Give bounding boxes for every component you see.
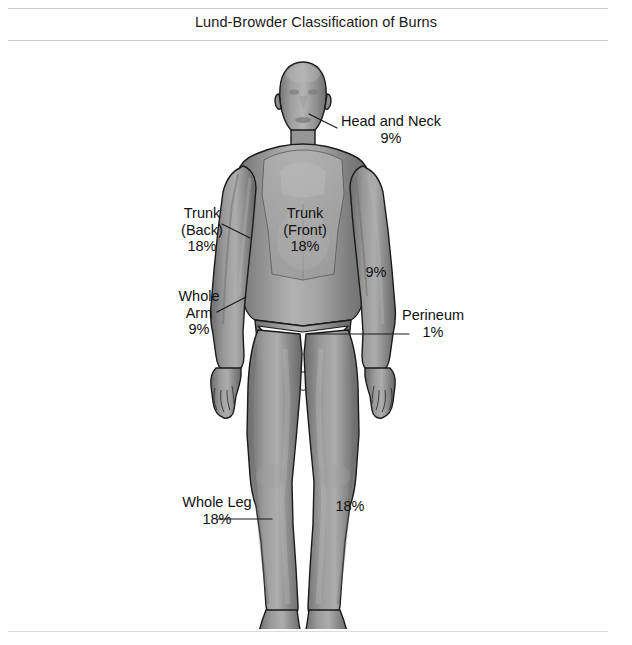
label-arm-right-value: 9% [358,264,394,281]
label-trunk-front-qualifier: (Front) [275,222,335,239]
label-whole-arm-title: Whole [170,288,228,305]
hand-left-shape [211,368,241,418]
label-whole-arm-value: 9% [170,321,228,338]
foot-left-shape [258,610,302,629]
label-perineum-value: 1% [396,324,470,341]
bottom-divider [8,631,608,632]
label-perineum: Perineum 1% [396,307,470,340]
page-title: Lund-Browder Classification of Burns [0,14,632,30]
foot-right-shape [304,610,348,629]
label-whole-leg-value: 18% [180,511,254,528]
label-trunk-front: Trunk (Front) 18% [275,205,335,255]
human-body-diagram [0,44,632,629]
label-head-and-neck-value: 9% [341,130,441,147]
top-divider [8,8,608,9]
figure-frame: Lund-Browder Classification of Burns [0,0,632,645]
body-silhouette [211,62,396,629]
label-trunk-back-value: 18% [172,238,232,255]
hand-right-shape [365,368,395,418]
label-perineum-title: Perineum [396,307,470,324]
label-arm-right-percent: 9% [358,264,394,281]
label-trunk-front-title: Trunk [275,205,335,222]
label-leg-right-percent: 18% [330,498,370,515]
knee-shading [256,464,350,488]
title-divider [8,40,608,41]
label-leg-right-value: 18% [330,498,370,515]
label-trunk-back-qualifier: (Back) [172,222,232,239]
label-trunk-front-value: 18% [275,238,335,255]
label-trunk-back: Trunk (Back) 18% [172,205,232,255]
label-head-and-neck-title: Head and Neck [341,113,441,130]
label-whole-arm: Whole Arm 9% [170,288,228,338]
label-whole-arm-qualifier: Arm [170,305,228,322]
label-head-and-neck: Head and Neck 9% [341,113,441,146]
label-whole-leg-title: Whole Leg [180,494,254,511]
label-trunk-back-title: Trunk [172,205,232,222]
label-whole-leg: Whole Leg 18% [180,494,254,527]
